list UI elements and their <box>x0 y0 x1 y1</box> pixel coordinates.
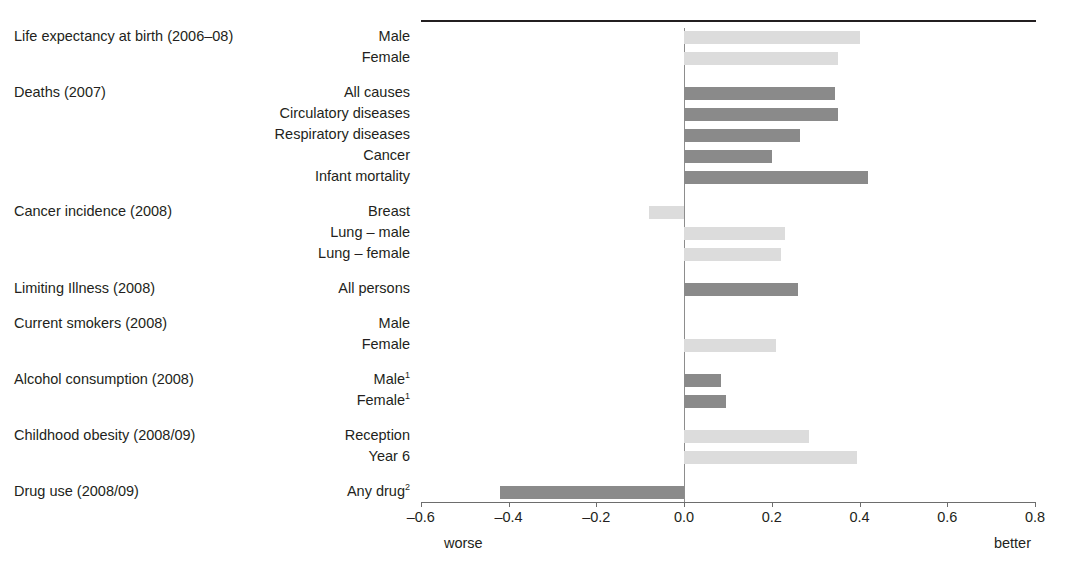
footnote-marker: 1 <box>405 391 410 401</box>
series-label: Year 6 <box>110 448 410 464</box>
bar <box>684 227 785 240</box>
bar <box>684 248 781 261</box>
top-rule <box>421 20 1036 22</box>
series-label: Any drug2 <box>110 483 410 499</box>
series-label: Breast <box>110 203 410 219</box>
x-tick <box>684 502 685 507</box>
series-label: Respiratory diseases <box>110 126 410 142</box>
series-label: Male <box>110 28 410 44</box>
bar <box>684 52 838 65</box>
group-label: Deaths (2007) <box>14 84 106 100</box>
x-tick-label: 0.2 <box>762 509 782 526</box>
series-label: Circulatory diseases <box>110 105 410 121</box>
x-tick-label: –0.2 <box>582 509 610 526</box>
x-tick-label: –0.4 <box>494 509 522 526</box>
bar <box>684 87 835 100</box>
bar <box>684 108 838 121</box>
axis-note-better: better <box>994 535 1031 552</box>
x-tick <box>509 502 510 507</box>
series-label: Female <box>110 49 410 65</box>
series-label: Female <box>110 336 410 352</box>
bar <box>684 395 726 408</box>
health-indicator-bar-chart: Life expectancy at birth (2006–08)MaleFe… <box>0 0 1067 570</box>
x-tick <box>772 502 773 507</box>
footnote-marker: 2 <box>405 482 410 492</box>
series-label: Male <box>110 315 410 331</box>
series-label: Male1 <box>110 371 410 387</box>
x-tick <box>596 502 597 507</box>
bar <box>684 430 809 443</box>
bar <box>684 129 800 142</box>
bar <box>684 31 860 44</box>
series-label: Lung – male <box>110 224 410 240</box>
axis-note-worse: worse <box>444 535 483 552</box>
bar <box>684 339 776 352</box>
x-tick-label: 0.6 <box>937 509 957 526</box>
x-tick <box>421 502 422 507</box>
bar <box>684 150 772 163</box>
series-label: All persons <box>110 280 410 296</box>
x-tick-label: 0.8 <box>1025 509 1045 526</box>
bar <box>684 283 798 296</box>
footnote-marker: 1 <box>405 370 410 380</box>
series-label: Female1 <box>110 392 410 408</box>
bar <box>684 171 868 184</box>
bar <box>649 206 684 219</box>
plot-area: –0.6–0.4–0.20.00.20.40.60.8 worse better <box>421 0 1036 540</box>
chart-label-column: Life expectancy at birth (2006–08)MaleFe… <box>0 0 410 520</box>
x-tick-label: –0.6 <box>407 509 435 526</box>
x-tick <box>947 502 948 507</box>
series-label: Reception <box>110 427 410 443</box>
series-label: Lung – female <box>110 245 410 261</box>
x-tick <box>860 502 861 507</box>
bar <box>684 451 857 464</box>
x-tick-label: 0.0 <box>674 509 694 526</box>
series-label: Cancer <box>110 147 410 163</box>
series-label: Infant mortality <box>110 168 410 184</box>
x-tick <box>1035 502 1036 507</box>
x-axis-line <box>421 502 1036 503</box>
bar <box>500 486 684 499</box>
x-tick-label: 0.4 <box>849 509 869 526</box>
series-label: All causes <box>110 84 410 100</box>
bar <box>684 374 721 387</box>
